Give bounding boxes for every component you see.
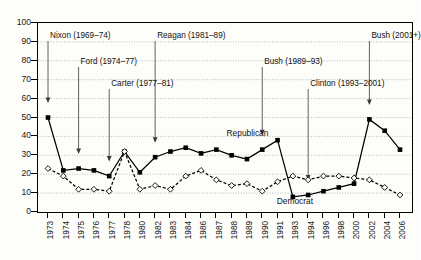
x-axis-tick-label: 1998 <box>337 221 346 239</box>
data-point-democrat-2004 <box>382 185 388 191</box>
annotation-arrowhead <box>76 149 81 155</box>
x-axis-tick-mark <box>47 213 48 218</box>
plot-svg <box>38 23 412 212</box>
annotation-arrowhead <box>367 99 372 105</box>
data-point-republican-1990 <box>260 147 265 152</box>
data-point-democrat-1994 <box>305 177 311 183</box>
data-point-democrat-1982 <box>152 183 158 189</box>
x-axis-tick-label: 1980 <box>138 221 147 239</box>
data-point-republican-1996 <box>321 189 326 194</box>
annotation-label: Bush (2001+) <box>371 31 420 40</box>
data-point-republican-2004 <box>382 128 387 133</box>
x-axis-tick-mark <box>62 213 63 218</box>
data-point-democrat-1974 <box>60 173 66 179</box>
x-axis-tick-label: 1973 <box>46 221 55 239</box>
annotation-label: Reagan (1981–89) <box>157 31 225 40</box>
y-axis-tick-label: 100 <box>17 17 31 27</box>
annotation-label: Nixon (1969–74) <box>50 31 111 40</box>
x-axis-tick-mark <box>154 213 155 218</box>
data-point-democrat-1998 <box>336 173 342 179</box>
x-axis-tick-label: 1988 <box>230 221 239 239</box>
x-axis-tick-mark <box>307 213 308 218</box>
series-label-republican: Republican <box>227 128 269 138</box>
x-axis-tick-mark <box>292 213 293 218</box>
x-axis-tick-mark <box>169 213 170 218</box>
data-point-republican-1989 <box>245 157 250 162</box>
data-point-republican-1991 <box>275 138 280 143</box>
x-axis-tick-label: 1977 <box>107 221 116 239</box>
x-axis-tick-mark <box>338 213 339 218</box>
annotation-arrowhead <box>153 137 158 143</box>
y-axis-tick-label: 30 <box>21 149 31 159</box>
annotation-label: Clinton (1993–2001) <box>310 79 384 88</box>
x-axis-tick-mark <box>399 213 400 218</box>
x-axis-tick-label: 2000 <box>352 221 361 239</box>
x-axis-tick-mark <box>322 213 323 218</box>
annotation-label: Bush (1989–93) <box>264 57 322 66</box>
x-axis-tick-mark <box>353 213 354 218</box>
data-point-democrat-1980 <box>137 186 143 192</box>
y-axis-tick-label: 80 <box>21 55 31 65</box>
x-axis-tick-label: 1994 <box>306 221 315 239</box>
x-axis-tick-label: 1976 <box>92 221 101 239</box>
x-axis-tick-label: 1989 <box>245 221 254 239</box>
annotation-label: Ford (1974–77) <box>81 57 137 66</box>
x-axis-tick-mark <box>139 213 140 218</box>
y-axis: 0102030405060708090100 <box>0 22 37 213</box>
data-point-republican-2002 <box>367 117 372 122</box>
x-axis-tick-mark <box>124 213 125 218</box>
series-label-democrat: Democrat <box>277 196 313 206</box>
x-axis-tick-mark <box>277 213 278 218</box>
x-axis-tick-mark <box>246 213 247 218</box>
x-axis-tick-label: 1983 <box>168 221 177 239</box>
x-axis-tick-label: 1975 <box>77 221 86 239</box>
x-axis-tick-mark <box>108 213 109 218</box>
data-point-democrat-1973 <box>45 166 51 172</box>
data-point-democrat-1988 <box>229 183 235 189</box>
x-axis-tick-mark <box>231 213 232 218</box>
x-axis-tick-label: 2006 <box>398 221 407 239</box>
y-axis-tick-label: 50 <box>21 112 31 122</box>
x-axis-tick-label: 1987 <box>214 221 223 239</box>
annotation-arrowhead <box>46 98 51 104</box>
data-point-republican-1973 <box>46 115 51 120</box>
data-point-republican-1988 <box>229 153 234 158</box>
y-axis-tick-label: 90 <box>21 36 31 46</box>
x-axis-tick-mark <box>93 213 94 218</box>
data-point-republican-1976 <box>92 168 97 173</box>
data-point-republican-1983 <box>168 149 173 154</box>
x-axis-tick-label: 1974 <box>61 221 70 239</box>
x-axis-tick-label: 2002 <box>367 221 376 239</box>
x-axis-tick-label: 1978 <box>122 221 131 239</box>
x-axis-tick-label: 1982 <box>153 221 162 239</box>
data-point-republican-1980 <box>138 170 143 175</box>
data-point-democrat-1975 <box>76 186 82 192</box>
x-axis-tick-mark <box>200 213 201 218</box>
x-axis-tick-mark <box>215 213 216 218</box>
x-axis-tick-label: 1990 <box>260 221 269 239</box>
data-point-republican-1986 <box>199 151 204 156</box>
x-axis: 1973197419751976197719781980198219831984… <box>37 213 413 260</box>
data-point-democrat-1989 <box>244 181 250 187</box>
data-point-republican-1982 <box>153 155 158 160</box>
x-axis-tick-mark <box>78 213 79 218</box>
x-axis-tick-mark <box>384 213 385 218</box>
x-axis-tick-label: 1993 <box>291 221 300 239</box>
data-point-republican-1998 <box>336 185 341 190</box>
data-point-democrat-1987 <box>213 177 219 183</box>
annotation-label: Carter (1977–81) <box>111 79 173 88</box>
plot-area <box>37 22 413 213</box>
data-point-democrat-2002 <box>366 177 372 183</box>
data-point-democrat-1976 <box>91 186 97 192</box>
data-point-democrat-1986 <box>198 168 204 174</box>
series-line-republican <box>48 118 400 197</box>
x-axis-tick-label: 1986 <box>199 221 208 239</box>
x-axis-tick-label: 1991 <box>275 221 284 239</box>
data-point-democrat-1991 <box>275 179 281 185</box>
x-axis-tick-mark <box>368 213 369 218</box>
data-point-republican-1984 <box>183 145 188 150</box>
y-axis-tick-label: 40 <box>21 130 31 140</box>
data-point-republican-1974 <box>61 168 66 173</box>
x-axis-tick-label: 1984 <box>184 221 193 239</box>
